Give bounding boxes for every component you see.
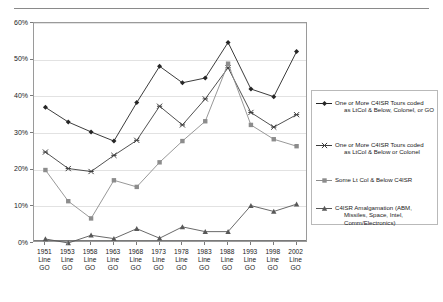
data-point xyxy=(111,139,116,144)
x-axis-tick xyxy=(159,242,160,245)
y-axis-tick-label: 60% xyxy=(0,19,28,26)
data-point xyxy=(43,149,48,154)
data-point xyxy=(249,123,253,127)
series-line xyxy=(45,42,296,141)
data-point xyxy=(294,201,299,206)
y-axis-tick xyxy=(30,242,33,243)
header-ghost-text xyxy=(295,0,355,7)
data-point xyxy=(157,236,162,241)
plot-area xyxy=(33,22,307,242)
data-point xyxy=(112,178,116,182)
legend-square-icon xyxy=(316,176,332,185)
data-point xyxy=(43,236,48,241)
data-point xyxy=(157,160,161,164)
data-point xyxy=(66,199,70,203)
data-point xyxy=(272,137,276,141)
data-point xyxy=(89,129,94,134)
series-2 xyxy=(43,65,299,174)
series-layer xyxy=(34,23,308,243)
data-point xyxy=(271,94,276,99)
chart-page: 0%10%20%30%40%50%60% 1951LineGO1953LineG… xyxy=(0,0,443,302)
x-axis-tick xyxy=(44,242,45,245)
data-point xyxy=(294,144,298,148)
x-axis-tick-label-line: 2002 xyxy=(282,248,310,256)
x-axis-tick xyxy=(296,242,297,245)
data-point xyxy=(271,125,276,130)
data-point xyxy=(134,100,139,105)
legend-label: One or More C4ISR Tours codedas LtCol & … xyxy=(335,141,424,156)
y-axis-tick-label: 0% xyxy=(0,239,28,246)
data-point xyxy=(294,49,299,54)
y-axis-tick-label: 10% xyxy=(0,202,28,209)
data-point xyxy=(43,105,48,110)
series-3 xyxy=(43,62,299,221)
data-point xyxy=(203,76,208,81)
x-axis-tick xyxy=(227,242,228,245)
data-point xyxy=(111,153,116,158)
data-point xyxy=(135,185,139,189)
x-axis-tick-label: 2002LineGO xyxy=(282,248,310,273)
x-axis-tick xyxy=(250,242,251,245)
legend-item-4[interactable]: C4ISR Amalgamation (ABM,Missiles, Space,… xyxy=(316,204,436,226)
data-point xyxy=(43,168,47,172)
x-axis-tick xyxy=(204,242,205,245)
data-point xyxy=(180,122,185,127)
data-point xyxy=(157,104,162,109)
series-line xyxy=(45,68,296,172)
legend-label: One or More C4ISR Tours codedas LtCol & … xyxy=(335,99,434,114)
series-line xyxy=(45,64,296,219)
data-point xyxy=(203,96,208,101)
data-point xyxy=(180,139,184,143)
legend-label: Some Lt Col & Below C4ISR xyxy=(335,176,412,183)
data-point xyxy=(66,166,71,171)
x-axis-tick xyxy=(67,242,68,245)
data-point xyxy=(88,233,93,238)
legend-label: C4ISR Amalgamation (ABM,Missiles, Space,… xyxy=(335,204,412,226)
header-divider xyxy=(14,8,429,9)
x-axis-tick xyxy=(273,242,274,245)
line-chart: 0%10%20%30%40%50%60% 1951LineGO1953LineG… xyxy=(0,14,443,302)
legend-item-1[interactable]: One or More C4ISR Tours codedas LtCol & … xyxy=(316,99,436,114)
legend-diamond-icon xyxy=(316,99,332,108)
data-point xyxy=(89,216,93,220)
data-point xyxy=(226,40,231,45)
y-axis-tick-label: 30% xyxy=(0,129,28,136)
y-axis-tick-label: 50% xyxy=(0,55,28,62)
series-1 xyxy=(43,40,299,144)
data-point xyxy=(66,120,71,125)
x-axis-tick-label-line: Line xyxy=(282,256,310,264)
y-axis-tick-label: 20% xyxy=(0,165,28,172)
legend-item-2[interactable]: One or More C4ISR Tours codedas LtCol & … xyxy=(316,141,436,156)
legend-triangle-icon xyxy=(316,204,332,213)
x-axis-tick xyxy=(136,242,137,245)
x-axis-tick-label-line: GO xyxy=(282,264,310,272)
x-axis-tick xyxy=(181,242,182,245)
data-point xyxy=(226,62,230,66)
data-point xyxy=(248,203,253,208)
series-line xyxy=(45,204,296,243)
data-point xyxy=(294,112,299,117)
data-point xyxy=(134,226,139,231)
legend-cross-icon xyxy=(316,141,332,150)
data-point xyxy=(203,119,207,123)
x-axis-tick xyxy=(90,242,91,245)
data-point xyxy=(248,87,253,92)
legend-item-3[interactable]: Some Lt Col & Below C4ISR xyxy=(316,176,436,185)
x-axis-tick xyxy=(113,242,114,245)
data-point xyxy=(88,169,93,174)
series-4 xyxy=(43,201,300,245)
data-point xyxy=(248,110,253,115)
chart-legend: One or More C4ISR Tours codedas LtCol & … xyxy=(311,90,438,225)
data-point xyxy=(180,224,185,229)
y-axis-tick-label: 40% xyxy=(0,92,28,99)
data-point xyxy=(134,138,139,143)
